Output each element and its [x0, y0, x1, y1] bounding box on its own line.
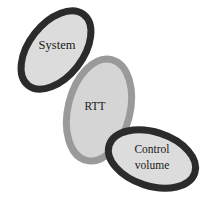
system-label: System — [39, 38, 76, 52]
rtt-label: RTT — [84, 100, 105, 112]
control-volume-label-line2: volume — [135, 159, 170, 171]
rtt-diagram: System RTT Control volume — [0, 0, 210, 204]
diagram-canvas: System RTT Control volume — [0, 0, 210, 204]
control-volume-label-line1: Control — [134, 143, 169, 155]
